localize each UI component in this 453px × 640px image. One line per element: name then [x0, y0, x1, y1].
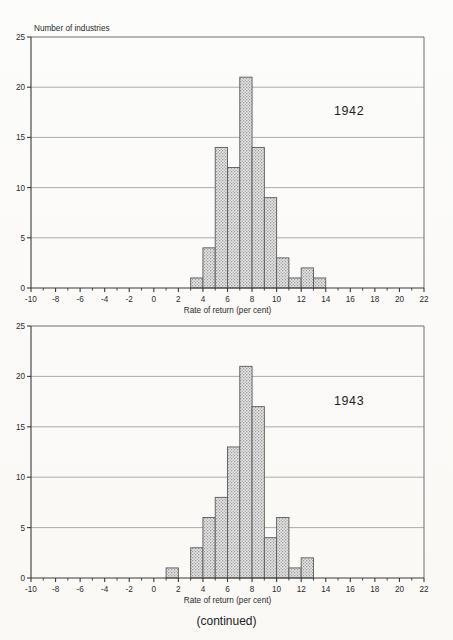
histogram-bar: [301, 558, 313, 578]
x-tick-label: 14: [321, 585, 331, 594]
histogram-bar: [264, 538, 276, 578]
y-tick-label: 0: [20, 284, 25, 293]
chart-panel-1942: 0510152025-10-8-6-4-20246810121416182022…: [0, 0, 453, 320]
y-axis-title: Number of industries: [34, 24, 110, 33]
histogram-bar: [252, 407, 264, 578]
histogram-bar: [228, 447, 240, 578]
x-axis-title: Rate of return (per cent): [184, 306, 272, 315]
histogram-bar: [301, 268, 313, 288]
x-tick-label: 2: [176, 585, 181, 594]
y-tick-label: 20: [16, 83, 26, 92]
chart-panel-1943: 0510152025-10-8-6-4-20246810121416182022…: [0, 320, 453, 640]
y-tick-label: 0: [20, 574, 25, 583]
x-tick-label: 20: [395, 295, 405, 304]
x-tick-label: 6: [225, 295, 230, 304]
bar-group: [166, 366, 313, 578]
x-tick-label: -4: [101, 585, 109, 594]
histogram-bar: [228, 168, 240, 288]
x-tick-label: -8: [52, 295, 60, 304]
histogram-bar: [277, 518, 289, 578]
x-tick-label: 20: [395, 585, 405, 594]
x-tick-label: 18: [370, 295, 380, 304]
x-tick-label: -6: [76, 295, 84, 304]
histogram-bar: [191, 548, 203, 578]
x-tick-label: 12: [297, 295, 307, 304]
bar-group: [191, 77, 326, 288]
histogram-bar: [240, 366, 252, 578]
y-tick-label: 5: [20, 234, 25, 243]
x-tick-label: 22: [419, 585, 429, 594]
histogram-bar: [191, 278, 203, 288]
x-tick-label: 2: [176, 295, 181, 304]
figure-histograms: 0510152025-10-8-6-4-20246810121416182022…: [0, 0, 453, 640]
histogram-bar: [166, 568, 178, 578]
x-tick-label: 4: [201, 295, 206, 304]
x-tick-label: 16: [346, 585, 356, 594]
y-tick-label: 10: [16, 473, 26, 482]
x-tick-label: 22: [419, 295, 429, 304]
y-tick-label: 10: [16, 184, 26, 193]
histogram-bar: [203, 248, 215, 288]
x-tick-label: 8: [250, 295, 255, 304]
x-tick-label: 0: [152, 295, 157, 304]
x-axis-title: Rate of return (per cent): [184, 596, 272, 605]
x-tick-label: 12: [297, 585, 307, 594]
x-tick-label: 10: [272, 295, 282, 304]
y-tick-label: 20: [16, 372, 26, 381]
y-tick-label: 25: [16, 322, 26, 331]
figure-caption: (continued): [0, 614, 453, 628]
x-tick-label: -6: [76, 585, 84, 594]
x-tick-label: 0: [152, 585, 157, 594]
histogram-1942: 0510152025-10-8-6-4-20246810121416182022…: [0, 0, 453, 320]
histogram-bar: [264, 198, 276, 288]
histogram-bar: [252, 147, 264, 288]
x-tick-label: -8: [52, 585, 60, 594]
histogram-bar: [313, 278, 325, 288]
y-tick-label: 15: [16, 423, 26, 432]
histogram-bar: [215, 147, 227, 288]
y-tick-label: 25: [16, 33, 26, 42]
y-tick-label: 15: [16, 133, 26, 142]
x-tick-label: 4: [201, 585, 206, 594]
histogram-bar: [203, 518, 215, 578]
x-tick-label: 8: [250, 585, 255, 594]
x-tick-label: 6: [225, 585, 230, 594]
histogram-bar: [277, 258, 289, 288]
histogram-bar: [215, 497, 227, 578]
x-tick-label: -10: [25, 585, 37, 594]
histogram-bar: [289, 568, 301, 578]
x-tick-label: 18: [370, 585, 380, 594]
x-tick-label: -2: [126, 295, 134, 304]
histogram-bar: [240, 77, 252, 288]
x-tick-label: 10: [272, 585, 282, 594]
year-annotation: 1943: [334, 394, 364, 408]
histogram-bar: [289, 278, 301, 288]
x-tick-label: -2: [126, 585, 134, 594]
x-tick-label: 14: [321, 295, 331, 304]
year-annotation: 1942: [334, 104, 364, 118]
y-tick-label: 5: [20, 524, 25, 533]
x-tick-label: 16: [346, 295, 356, 304]
x-tick-label: -4: [101, 295, 109, 304]
histogram-1943: 0510152025-10-8-6-4-20246810121416182022…: [0, 320, 453, 640]
x-tick-label: -10: [25, 295, 37, 304]
